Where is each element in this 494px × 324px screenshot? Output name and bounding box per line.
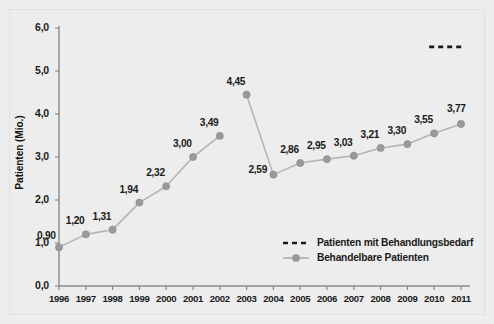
series-line-behandelbare bbox=[247, 95, 461, 175]
data-point-label: 4,45 bbox=[227, 76, 246, 87]
data-point-marker bbox=[323, 156, 330, 163]
data-point-marker bbox=[297, 159, 304, 166]
data-point-marker bbox=[109, 226, 116, 233]
data-point-label: 3,55 bbox=[414, 114, 433, 125]
data-point-marker bbox=[457, 120, 464, 127]
data-point-label: 1,20 bbox=[66, 215, 85, 226]
data-point-label: 2,32 bbox=[146, 167, 165, 178]
data-point-label: 1,31 bbox=[93, 211, 112, 222]
data-point-label: 3,49 bbox=[200, 117, 219, 128]
data-point-label: 2,59 bbox=[248, 164, 267, 175]
data-point-label: 2,86 bbox=[280, 144, 299, 155]
legend-swatch-marker bbox=[292, 254, 299, 261]
data-point-label: 3,03 bbox=[334, 137, 353, 148]
data-point-marker bbox=[163, 183, 170, 190]
data-point-marker bbox=[55, 244, 62, 251]
data-point-marker bbox=[270, 171, 277, 178]
data-point-marker bbox=[243, 91, 250, 98]
data-point-label: 3,00 bbox=[173, 138, 192, 149]
data-point-marker bbox=[136, 199, 143, 206]
data-point-marker bbox=[216, 132, 223, 139]
data-point-label: 2,95 bbox=[307, 140, 326, 151]
data-point-label: 3,30 bbox=[387, 125, 406, 136]
data-point-marker bbox=[350, 152, 357, 159]
data-point-marker bbox=[431, 130, 438, 137]
data-point-label: 1,94 bbox=[119, 184, 138, 195]
data-point-label: 3,21 bbox=[361, 129, 380, 140]
chart-figure: Patienten (Mio.) 0,01,02,03,04,05,06,0 1… bbox=[0, 0, 494, 324]
data-point-marker bbox=[82, 231, 89, 238]
legend-item-label: Patienten mit Behandlungsbedarf bbox=[317, 237, 473, 248]
plot-area bbox=[0, 0, 494, 324]
series-line-behandelbare bbox=[59, 136, 220, 247]
data-point-label: 0,90 bbox=[37, 230, 56, 241]
data-point-label: 3,77 bbox=[447, 103, 466, 114]
data-point-marker bbox=[404, 141, 411, 148]
data-point-marker bbox=[377, 144, 384, 151]
legend-item-label: Behandelbare Patienten bbox=[317, 252, 429, 263]
data-point-marker bbox=[189, 153, 196, 160]
